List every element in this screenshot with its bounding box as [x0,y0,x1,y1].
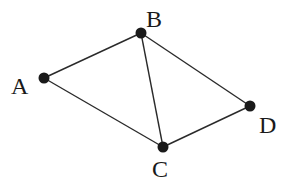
edge-b-c [141,33,163,147]
node-label-a: A [11,73,29,99]
node-c [158,142,169,153]
node-b [136,28,147,39]
edge-a-b [44,33,141,78]
node-label-d: D [259,112,276,138]
edges-group [44,33,250,147]
edge-a-c [44,78,163,147]
edge-c-d [163,106,250,147]
graph-diagram: ABCD [0,0,288,187]
node-label-c: C [152,156,168,182]
node-d [245,101,256,112]
nodes-group [39,28,256,153]
edge-b-d [141,33,250,106]
node-a [39,73,50,84]
node-label-b: B [146,6,162,32]
